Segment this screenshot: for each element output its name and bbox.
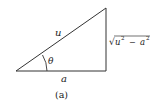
- right-triangle-diagram: u θ a (a) √ u 2 − a 2: [0, 0, 156, 109]
- hypotenuse-label: u: [55, 27, 61, 38]
- angle-label: θ: [48, 56, 54, 66]
- angle-arc: [43, 55, 48, 71]
- radicand-u-exponent: 2: [121, 35, 125, 41]
- radicand-a: a: [140, 37, 145, 47]
- base-label: a: [61, 73, 67, 84]
- radicand-a-exponent: 2: [146, 35, 150, 41]
- radicand-u: u: [115, 37, 120, 47]
- minus-sign: −: [129, 38, 136, 47]
- opposite-side-label: √ u 2 − a 2: [109, 35, 150, 47]
- right-triangle: [16, 8, 106, 71]
- figure-caption: (a): [55, 89, 68, 100]
